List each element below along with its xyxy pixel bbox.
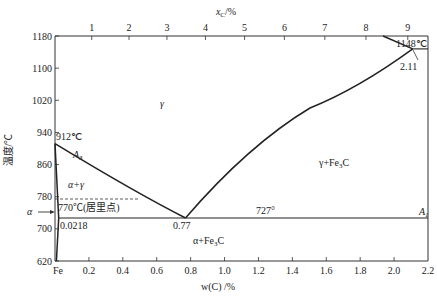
x-tick-label: 1.2: [252, 265, 265, 276]
label-0-77: 0.77: [173, 220, 191, 231]
x-tick-label: 1.8: [354, 265, 367, 276]
x-tick-label: 2.0: [388, 265, 401, 276]
x-tick-label: 1.0: [218, 265, 231, 276]
x-tick-label: 1.6: [320, 265, 333, 276]
label-a1: A1: [418, 206, 429, 219]
x-tick-label: Fe: [53, 265, 64, 276]
y-tick-label: 700: [37, 223, 52, 234]
y-axis-title: 温度/℃: [2, 134, 14, 167]
top-tick-label: 7: [322, 22, 327, 33]
label-alpha-gamma: α+γ: [68, 179, 85, 190]
top-tick-label: 8: [363, 22, 368, 33]
y-tick-label: 1100: [32, 63, 52, 74]
y-tick-label: 1020: [32, 95, 52, 106]
top-axis-title: xC/%: [215, 6, 236, 19]
y-tick-label: 620: [37, 256, 52, 267]
x-tick-label: 2.2: [422, 265, 435, 276]
plot-frame: [55, 36, 428, 261]
label-a3: A3: [72, 149, 83, 162]
alpha-arrow-icon: [38, 210, 55, 214]
top-tick-label: 3: [164, 22, 169, 33]
x-tick-label: 0.6: [150, 265, 163, 276]
x-tick-label: 0.8: [184, 265, 197, 276]
top-axis-ticks: 123456789: [89, 22, 410, 40]
top-tick-label: 9: [405, 22, 410, 33]
y-tick-label: 940: [37, 127, 52, 138]
top-tick-label: 4: [203, 22, 208, 33]
x-tick-label: 1.4: [286, 265, 299, 276]
label-912: 912℃: [56, 131, 82, 142]
label-alpha: α: [27, 206, 33, 217]
label-curie: 770℃(居里点): [58, 202, 120, 214]
label-2-11: 2.11: [400, 61, 417, 72]
y-tick-label: 860: [37, 159, 52, 170]
x-axis-ticks: Fe0.20.40.60.81.01.21.41.61.82.02.2: [53, 257, 434, 276]
top-tick-label: 2: [127, 22, 132, 33]
pq-line: [56, 218, 58, 261]
label-alpha-fe3c: α+Fe3C: [193, 235, 224, 248]
x-axis-title: w(C) /%: [201, 281, 235, 293]
label-0-0218: 0.0218: [60, 220, 88, 231]
label-1148: 1148℃: [396, 38, 427, 49]
phase-diagram-chart: 620700780860940102011001180 Fe0.20.40.60…: [0, 0, 437, 304]
top-tick-label: 6: [282, 22, 287, 33]
label-gamma: γ: [160, 98, 165, 109]
pointer-2-11: [413, 50, 418, 60]
phase-lines: [55, 36, 428, 261]
label-gamma-fe3c: γ+Fe3C: [318, 157, 350, 170]
y-tick-label: 1180: [32, 31, 52, 42]
top-tick-label: 5: [242, 22, 247, 33]
x-tick-label: 0.4: [117, 265, 130, 276]
acm-line: [186, 49, 413, 218]
x-tick-label: 0.2: [83, 265, 96, 276]
y-tick-label: 780: [37, 191, 52, 202]
label-727: 727°: [256, 205, 275, 216]
top-tick-label: 1: [89, 22, 94, 33]
